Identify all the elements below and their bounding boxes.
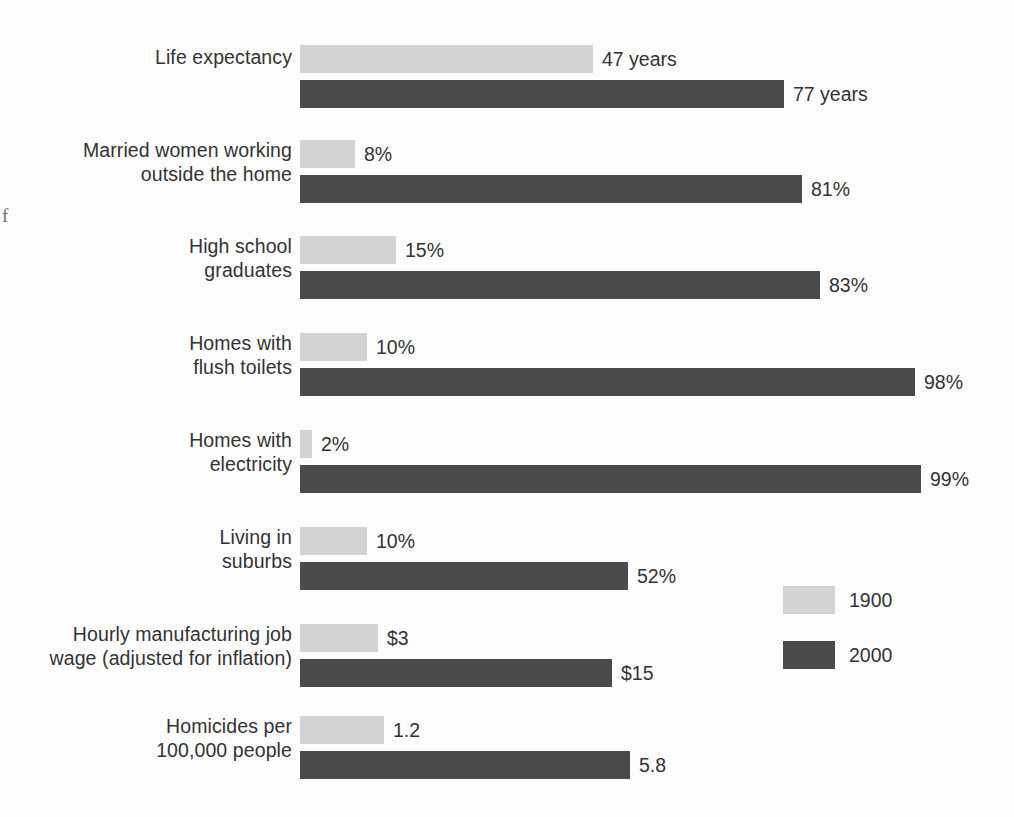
row-label-line: Homes with <box>0 428 292 452</box>
bar-value-2000: 77 years <box>784 83 868 106</box>
bar-1900 <box>300 333 367 361</box>
row-label-line: High school <box>0 234 292 258</box>
bar-1900 <box>300 527 367 555</box>
bar-track-2000: 52% <box>300 562 628 590</box>
row-label: Married women working outside the home <box>0 138 292 186</box>
row-label-line: graduates <box>0 258 292 282</box>
bar-track-1900: 10% <box>300 333 367 361</box>
row-label: Life expectancy <box>0 45 292 69</box>
bar-value-2000: 83% <box>820 274 868 297</box>
bar-value-1900: 8% <box>355 143 392 166</box>
bar-1900 <box>300 140 355 168</box>
bar-track-2000: 98% <box>300 368 915 396</box>
bar-track-1900: $3 <box>300 624 378 652</box>
row-label: Homicides per 100,000 people <box>0 714 292 762</box>
bar-2000 <box>300 751 630 779</box>
row-label-line: electricity <box>0 452 292 476</box>
row-label-line: Living in <box>0 525 292 549</box>
bar-2000 <box>300 465 921 493</box>
row-label: Living in suburbs <box>0 525 292 573</box>
bar-track-1900: 15% <box>300 236 396 264</box>
bar-value-2000: 98% <box>915 371 963 394</box>
bar-2000 <box>300 562 628 590</box>
row-label: Hourly manufacturing job wage (adjusted … <box>0 622 292 670</box>
legend-swatch-1900 <box>783 586 835 614</box>
bar-track-2000: 81% <box>300 175 802 203</box>
bar-value-1900: 15% <box>396 239 444 262</box>
bar-1900 <box>300 716 384 744</box>
row-label: High school graduates <box>0 234 292 282</box>
bar-1900 <box>300 236 396 264</box>
row-label-line: 100,000 people <box>0 738 292 762</box>
bar-2000 <box>300 368 915 396</box>
bar-1900 <box>300 430 312 458</box>
legend-label-1900: 1900 <box>849 589 892 612</box>
legend-swatch-2000 <box>783 641 835 669</box>
bar-value-2000: 52% <box>628 565 676 588</box>
legend-label-2000: 2000 <box>849 644 892 667</box>
bar-track-2000: 5.8 <box>300 751 630 779</box>
row-label-line: suburbs <box>0 549 292 573</box>
row-label-line: flush toilets <box>0 355 292 379</box>
row-label-line: wage (adjusted for inflation) <box>0 646 292 670</box>
bar-track-1900: 10% <box>300 527 367 555</box>
bar-value-2000: 81% <box>802 178 850 201</box>
bar-value-1900: 10% <box>367 336 415 359</box>
bar-value-1900: $3 <box>378 627 409 650</box>
bar-value-1900: 10% <box>367 530 415 553</box>
row-label: Homes with flush toilets <box>0 331 292 379</box>
bar-track-1900: 8% <box>300 140 355 168</box>
bar-value-2000: 99% <box>921 468 969 491</box>
bar-value-2000: $15 <box>612 662 654 685</box>
bar-1900 <box>300 624 378 652</box>
row-label-line: Homes with <box>0 331 292 355</box>
bar-2000 <box>300 175 802 203</box>
row-label-line: Hourly manufacturing job <box>0 622 292 646</box>
bar-track-1900: 2% <box>300 430 312 458</box>
bar-1900 <box>300 45 593 73</box>
row-label-line: Life expectancy <box>0 45 292 69</box>
bar-value-1900: 2% <box>312 433 349 456</box>
bar-track-2000: 99% <box>300 465 921 493</box>
bar-track-2000: $15 <box>300 659 612 687</box>
row-label: Homes with electricity <box>0 428 292 476</box>
bar-2000 <box>300 271 820 299</box>
bar-value-2000: 5.8 <box>630 754 666 777</box>
bar-track-2000: 77 years <box>300 80 784 108</box>
bar-value-1900: 47 years <box>593 48 677 71</box>
row-label-line: Homicides per <box>0 714 292 738</box>
grouped-bar-chart: f Life expectancy 47 years 77 years Marr… <box>0 0 1014 817</box>
stray-scan-glyph: f <box>2 205 8 227</box>
bar-2000 <box>300 80 784 108</box>
bar-2000 <box>300 659 612 687</box>
row-label-line: outside the home <box>0 162 292 186</box>
bar-value-1900: 1.2 <box>384 719 420 742</box>
bar-track-1900: 47 years <box>300 45 593 73</box>
row-label-line: Married women working <box>0 138 292 162</box>
bar-track-2000: 83% <box>300 271 820 299</box>
bar-track-1900: 1.2 <box>300 716 384 744</box>
